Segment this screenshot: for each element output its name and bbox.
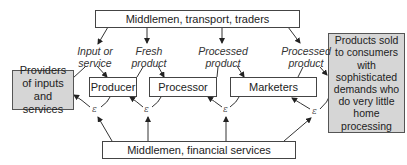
marketers-label: Marketers — [249, 81, 298, 94]
top-box-label: Middlemen, transport, traders — [126, 13, 270, 26]
label-input-service: Input or service — [73, 45, 117, 69]
producer-box: Producer — [89, 77, 137, 97]
label-fresh-product: Fresh product — [129, 45, 169, 69]
label-processed1-line-2: product — [198, 57, 248, 69]
epsilon-4: ε — [312, 106, 317, 116]
consumers-line-8: processing — [341, 120, 392, 132]
epsilon-2: ε — [144, 104, 149, 114]
bottom-middlemen-box: Middlemen, financial services — [102, 141, 296, 159]
providers-line-1: Providers — [20, 64, 66, 77]
epsilon-3: ε — [223, 104, 228, 114]
consumers-line-6: do very little — [338, 95, 394, 107]
consumers-line-4: sophisticated — [336, 71, 397, 83]
providers-line-2: of inputs — [22, 77, 64, 90]
providers-line-3: and services — [13, 90, 73, 116]
top-middlemen-box: Middlemen, transport, traders — [95, 10, 300, 28]
processor-box: Processor — [149, 77, 217, 97]
consumers-line-1: Products sold — [335, 34, 399, 46]
consumers-line-5: demands who — [334, 83, 399, 95]
consumers-line-2: to consumers — [335, 46, 398, 58]
label-processed-product-2: Processed product — [281, 45, 331, 69]
producer-label: Producer — [91, 81, 136, 94]
label-processed1-line-1: Processed — [198, 45, 248, 57]
consumers-line-3: with — [357, 59, 376, 71]
marketers-box: Marketers — [230, 77, 317, 97]
label-processed-product-1: Processed product — [198, 45, 248, 69]
label-input-line-1: Input or — [73, 45, 117, 57]
providers-box: Providers of inputs and services — [12, 70, 74, 110]
label-processed2-line-2: product — [281, 57, 331, 69]
epsilon-1: ε — [92, 104, 97, 114]
consumers-line-7: home — [353, 107, 379, 119]
label-fresh-line-1: Fresh — [129, 45, 169, 57]
consumers-box: Products sold to consumers with sophisti… — [328, 33, 405, 133]
processor-label: Processor — [158, 81, 208, 94]
label-input-line-2: service — [73, 57, 117, 69]
label-fresh-line-2: product — [129, 57, 169, 69]
bottom-box-label: Middlemen, financial services — [127, 144, 271, 157]
label-processed2-line-1: Processed — [281, 45, 331, 57]
